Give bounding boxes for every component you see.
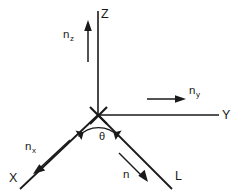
- vector-base-n-x: n: [25, 140, 31, 152]
- axis-label-l: L: [175, 170, 182, 183]
- angle-label-theta: θ: [99, 131, 105, 142]
- vector-label-n-z: nz: [63, 29, 73, 41]
- axis-label-x: X: [9, 172, 17, 185]
- diagram-canvas: [0, 0, 246, 195]
- axes-group: [20, 11, 219, 189]
- vector-base-n-y: n: [189, 84, 195, 96]
- vector-subscript-n-z: z: [70, 34, 74, 43]
- vector-subscript-n-y: y: [196, 90, 200, 99]
- axis-label-z: Z: [101, 8, 109, 21]
- n-x-vector-arrow: [33, 140, 70, 174]
- vector-label-n-y: ny: [189, 85, 199, 97]
- vector-base-n: n: [123, 168, 129, 180]
- coordinate-system-diagram: Z Y X L nz ny nx n θ: [0, 0, 246, 195]
- l-ray-line: [98, 115, 172, 189]
- n-z-vector-arrow: [84, 20, 92, 62]
- vector-base-n-z: n: [63, 28, 69, 40]
- vector-label-n: n: [123, 169, 129, 181]
- axis-label-y: Y: [222, 109, 230, 122]
- n-y-vector-arrow: [147, 95, 186, 103]
- vector-subscript-n-x: x: [32, 146, 36, 155]
- vector-label-n-x: nx: [25, 141, 35, 153]
